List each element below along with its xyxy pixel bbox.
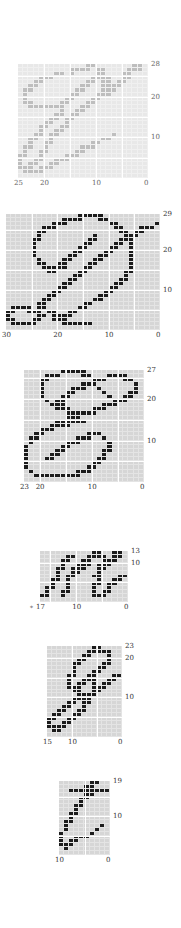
grid-line: [83, 214, 84, 330]
grid-line: [6, 250, 160, 251]
grid-line: [85, 781, 86, 855]
grid-line: [6, 310, 160, 311]
grid-line: [6, 270, 160, 271]
grid-line: [47, 717, 122, 718]
pixel-grid: [18, 64, 148, 178]
grid-line: [40, 563, 128, 564]
y-tick-label: 23: [125, 643, 134, 650]
grid-line: [47, 658, 122, 659]
grid-line: [18, 158, 148, 159]
grid-line: [18, 117, 148, 118]
x-tick-label: 0: [156, 332, 160, 339]
grid-line: [109, 214, 110, 330]
y-tick-label: 20: [163, 247, 172, 254]
grid-line: [57, 214, 58, 330]
x-tick-label: 0: [144, 180, 148, 187]
grid-line: [18, 97, 148, 98]
y-tick-label: 28: [151, 61, 160, 68]
y-tick-label: 13: [131, 548, 140, 555]
grid-line: [96, 64, 97, 178]
grid-line: [72, 646, 73, 737]
x-tick-label: 23: [20, 484, 29, 491]
grid-line: [6, 290, 160, 291]
grid-line: [102, 551, 103, 602]
pixel-grid: [59, 781, 110, 855]
grid-line: [32, 214, 33, 330]
grid-line: [134, 214, 135, 330]
x-tick-label: 20: [36, 484, 45, 491]
pixel-grid: [40, 551, 128, 602]
y-tick-label: 20: [151, 94, 160, 101]
x-tick-label: 20: [40, 180, 49, 187]
x-tick-label: 0: [124, 604, 128, 611]
x-tick-label: 25: [14, 180, 23, 187]
grid-line: [70, 64, 71, 178]
grid-line: [97, 646, 98, 737]
grid-line: [59, 836, 110, 837]
grid-line: [40, 582, 128, 583]
x-tick-label: 10: [72, 604, 81, 611]
grid-line: [24, 378, 144, 379]
y-tick-label: 10: [131, 560, 140, 567]
asterisk-marker: *: [30, 604, 33, 611]
grid-line: [24, 461, 144, 462]
grid-line: [59, 816, 110, 817]
y-tick-label: 10: [125, 694, 134, 701]
grid-line: [40, 370, 41, 482]
grid-line: [47, 697, 122, 698]
x-tick-label: 15: [43, 739, 52, 746]
x-tick-label: 17: [36, 604, 45, 611]
x-tick-label: 0: [140, 484, 144, 491]
x-tick-label: 10: [105, 332, 114, 339]
grid-line: [47, 678, 122, 679]
grid-line: [24, 420, 144, 421]
pixel-grid: [24, 370, 144, 482]
pixel-grid: [47, 646, 122, 737]
x-tick-label: 10: [88, 484, 97, 491]
y-tick-label: 27: [147, 367, 156, 374]
x-tick-label: 20: [53, 332, 62, 339]
grid-line: [44, 64, 45, 178]
grid-line: [92, 370, 93, 482]
x-tick-label: 10: [68, 739, 77, 746]
y-tick-label: 10: [147, 438, 156, 445]
x-tick-label: 10: [55, 857, 64, 864]
grid-line: [66, 370, 67, 482]
grid-line: [24, 441, 144, 442]
y-tick-label: 19: [113, 778, 122, 785]
y-tick-label: 10: [113, 813, 122, 820]
x-tick-label: 10: [92, 180, 101, 187]
grid-line: [18, 76, 148, 77]
grid-line: [118, 370, 119, 482]
x-tick-label: 30: [2, 332, 11, 339]
y-tick-label: 10: [151, 134, 160, 141]
grid-line: [24, 399, 144, 400]
grid-line: [122, 64, 123, 178]
y-tick-label: 20: [147, 396, 156, 403]
x-tick-label: 0: [118, 739, 122, 746]
y-tick-label: 29: [163, 211, 172, 218]
x-tick-label: 0: [106, 857, 110, 864]
grid-line: [18, 137, 148, 138]
grid-line: [59, 797, 110, 798]
y-tick-label: 20: [125, 655, 134, 662]
grid-line: [6, 230, 160, 231]
pixel-grid: [6, 214, 160, 330]
grid-line: [76, 551, 77, 602]
y-tick-label: 10: [163, 287, 172, 294]
grid-line: [50, 551, 51, 602]
